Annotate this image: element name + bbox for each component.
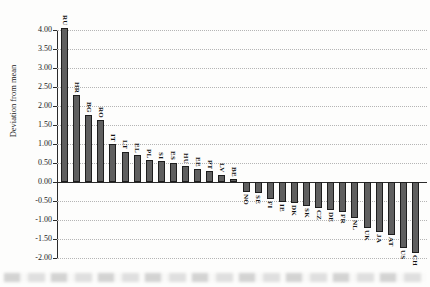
- y-tick-mark: [53, 182, 57, 183]
- gridline--1.50: [57, 239, 427, 240]
- y-tick-mark: [53, 68, 57, 69]
- y-tick-mark: [53, 163, 57, 164]
- scan-artifact-band: [4, 273, 426, 282]
- bar-label-SE: SE: [253, 195, 262, 204]
- gridline-3.50: [57, 49, 427, 50]
- y-tick-mark: [53, 125, 57, 126]
- gridline-1.50: [57, 125, 427, 126]
- bar-ES: [170, 163, 177, 182]
- y-tick-mark: [53, 144, 57, 145]
- y-tick-label--1.50: -1.50: [16, 234, 52, 244]
- gridline-2.00: [57, 106, 427, 107]
- bar-label-SK: SK: [302, 208, 311, 218]
- bar-label-NL: NL: [350, 220, 359, 230]
- bar-chart-figure: Deviation from mean 4.003.503.002.502.00…: [0, 0, 430, 287]
- gridline-3.00: [57, 68, 427, 69]
- y-tick-mark: [53, 49, 57, 50]
- bar-RO: [97, 120, 104, 182]
- bar-label-HR: HR: [72, 82, 81, 93]
- y-tick-label-1.50: 1.50: [16, 120, 52, 130]
- bar-DE: [327, 182, 334, 210]
- bar-UK: [364, 182, 371, 228]
- bar-label-UK: UK: [362, 230, 371, 241]
- bar-label-BG: BG: [84, 102, 93, 113]
- bar-BE: [230, 179, 237, 182]
- gridline-2.50: [57, 87, 427, 88]
- bar-label-DK: DK: [289, 205, 298, 216]
- bar-label-IT: IT: [108, 134, 117, 142]
- bar-label-EL: EL: [132, 143, 141, 153]
- bar-AT: [388, 182, 395, 235]
- y-tick-mark: [53, 239, 57, 240]
- bar-PT: [206, 171, 213, 182]
- y-tick-label-1.00: 1.00: [16, 139, 52, 149]
- y-tick-label-3.00: 3.00: [16, 63, 52, 73]
- bar-label-RO: RO: [96, 107, 105, 118]
- gridline-4.00: [57, 30, 427, 31]
- bar-EL: [134, 155, 141, 182]
- y-tick-mark: [53, 30, 57, 31]
- bar-label-JA: JA: [374, 234, 383, 243]
- bar-label-PL: PL: [144, 149, 153, 159]
- bar-NL: [351, 182, 358, 218]
- bar-BG: [85, 115, 92, 182]
- bar-SI: [158, 161, 165, 182]
- bar-IT: [109, 144, 116, 182]
- bar-HR: [73, 95, 80, 182]
- y-tick-label-2.00: 2.00: [16, 101, 52, 111]
- bar-LV: [218, 175, 225, 182]
- bar-label-HU: HU: [181, 153, 190, 164]
- bar-label-RU: RU: [60, 15, 69, 26]
- y-tick-label--1.00: -1.00: [16, 215, 52, 225]
- bar-label-EE: EE: [193, 157, 202, 167]
- y-tick-label-3.50: 3.50: [16, 44, 52, 54]
- y-tick-label-0.50: 0.50: [16, 158, 52, 168]
- plot-area: RUHRBGROITLTELPLSIESHUEEPTLVBENOSEFIIEDK…: [57, 30, 427, 258]
- y-tick-label-2.50: 2.50: [16, 82, 52, 92]
- y-tick-label-4.00: 4.00: [16, 25, 52, 35]
- y-tick-mark: [53, 258, 57, 259]
- bar-label-IE: IE: [277, 204, 286, 212]
- bar-label-ES: ES: [168, 151, 177, 160]
- bar-label-BE: BE: [229, 167, 238, 177]
- bar-label-LT: LT: [120, 140, 129, 149]
- bar-label-LV: LV: [217, 163, 226, 173]
- bar-label-CZ: CZ: [314, 210, 323, 220]
- bar-LT: [122, 152, 129, 182]
- y-tick-mark: [53, 201, 57, 202]
- y-tick-label--0.50: -0.50: [16, 196, 52, 206]
- bar-CZ: [315, 182, 322, 208]
- bar-label-CH: CH: [410, 255, 419, 266]
- bar-EE: [194, 169, 201, 182]
- bar-label-FR: FR: [338, 214, 347, 224]
- y-tick-mark: [53, 220, 57, 221]
- bar-FI: [267, 182, 274, 199]
- bar-HU: [182, 166, 189, 182]
- bar-SE: [255, 182, 262, 193]
- bar-JA: [376, 182, 383, 232]
- bar-SK: [303, 182, 310, 206]
- y-tick-label--2.00: -2.00: [16, 253, 52, 263]
- bar-NO: [243, 182, 250, 192]
- gridline--1.00: [57, 220, 427, 221]
- bar-label-PT: PT: [205, 160, 214, 170]
- bar-label-FI: FI: [265, 201, 274, 209]
- bar-DK: [291, 182, 298, 203]
- y-tick-mark: [53, 87, 57, 88]
- bar-RU: [61, 28, 68, 182]
- bar-US: [400, 182, 407, 248]
- bar-label-DE: DE: [326, 212, 335, 222]
- bar-IE: [279, 182, 286, 202]
- bar-FR: [339, 182, 346, 212]
- bar-PL: [146, 160, 153, 182]
- bar-label-NO: NO: [241, 194, 250, 205]
- y-tick-label-0.00: 0.00: [16, 177, 52, 187]
- bar-label-SI: SI: [156, 152, 165, 159]
- gridline--2.00: [57, 258, 427, 259]
- bar-label-AT: AT: [386, 237, 395, 247]
- bar-CH: [412, 182, 419, 253]
- bar-label-US: US: [398, 250, 407, 260]
- y-tick-mark: [53, 106, 57, 107]
